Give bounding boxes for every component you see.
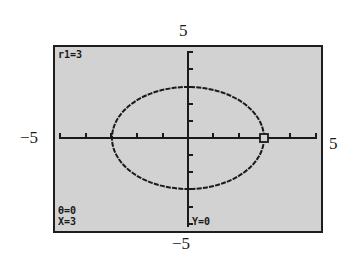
xmax-label: 5 [329, 135, 338, 152]
graph-canvas [55, 47, 321, 231]
ymin-label: −5 [172, 235, 190, 252]
equation-label: r1=3 [58, 50, 82, 60]
trace-x-value: X=3 [58, 217, 76, 227]
ymax-label: 5 [179, 22, 188, 39]
calculator-graph-screen[interactable]: r1=3 θ=0 X=3 Y=0 [53, 45, 323, 233]
axes [59, 51, 317, 227]
xmin-label: −5 [20, 129, 38, 146]
trace-theta-value: θ=0 [58, 206, 76, 216]
trace-cursor [260, 134, 268, 142]
trace-y-value: Y=0 [192, 217, 210, 227]
